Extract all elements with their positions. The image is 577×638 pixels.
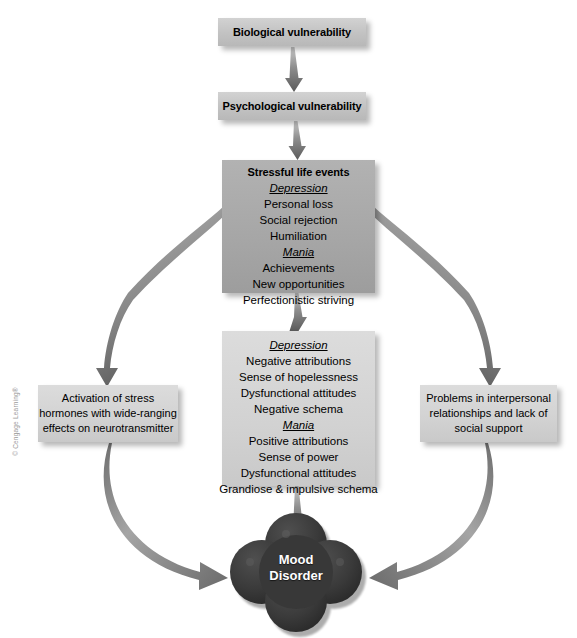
mood-disorder-line1: Mood	[236, 552, 356, 568]
stressful-mania-item: Achievements	[262, 260, 334, 276]
stress-hormones-line: hormones with wide-ranging	[39, 406, 177, 421]
arrow-biological-to-psychological	[285, 47, 303, 92]
mood-disorder-label: Mood Disorder	[236, 552, 356, 584]
stress-hormones-line: Activation of stress	[62, 391, 154, 406]
node-psychological-vulnerability[interactable]: Psychological vulnerability	[218, 92, 366, 120]
stressful-life-events-title: Stressful life events	[248, 165, 350, 180]
stressful-mania-label: Mania	[283, 244, 314, 260]
mood-disorder-diagram: Biological vulnerability Psychological v…	[0, 0, 577, 638]
psychological-vulnerability-title: Psychological vulnerability	[222, 99, 361, 114]
node-interpersonal-problems[interactable]: Problems in interpersonal relationships …	[420, 385, 557, 442]
cognitive-mania-item: Grandiose & impulsive schema	[219, 481, 378, 497]
biological-vulnerability-title: Biological vulnerability	[233, 25, 351, 40]
stressful-depression-item: Social rejection	[260, 212, 338, 228]
cognitive-depression-item: Negative schema	[254, 401, 343, 417]
mood-disorder-line2: Disorder	[236, 568, 356, 584]
stress-hormones-line: effects on neurotransmitter	[43, 421, 174, 436]
stressful-mania-item: New opportunities	[252, 276, 344, 292]
cognitive-depression-item: Dysfunctional attitudes	[241, 385, 357, 401]
arrow-stressful-to-stress-hormones	[96, 206, 228, 387]
cognitive-depression-item: Sense of hopelessness	[239, 369, 358, 385]
arrow-stress-hormones-to-outcome	[104, 443, 228, 590]
cognitive-depression-label: Depression	[269, 337, 327, 353]
node-stress-hormones[interactable]: Activation of stress hormones with wide-…	[38, 385, 178, 442]
interpersonal-line: social support	[455, 421, 523, 436]
copyright-notice: © Cengage Learning®	[12, 379, 19, 465]
cognitive-mania-item: Sense of power	[259, 449, 339, 465]
stressful-mania-item: Perfectionistic striving	[243, 292, 354, 308]
stressful-depression-label: Depression	[269, 180, 327, 196]
stressful-depression-item: Personal loss	[264, 196, 333, 212]
arrow-interpersonal-to-outcome	[369, 443, 493, 590]
cognitive-depression-item: Negative attributions	[246, 353, 351, 369]
interpersonal-line: relationships and lack of	[429, 406, 547, 421]
node-stressful-life-events[interactable]: Stressful life events Depression Persona…	[222, 160, 375, 293]
arrow-stressful-to-interpersonal	[369, 206, 501, 387]
cognitive-mania-item: Dysfunctional attitudes	[241, 465, 357, 481]
cognitive-mania-item: Positive attributions	[249, 433, 349, 449]
arrow-psychological-to-stressful	[289, 121, 307, 160]
stressful-depression-item: Humiliation	[270, 228, 327, 244]
node-cognitive-styles[interactable]: Depression Negative attributions Sense o…	[222, 331, 375, 486]
interpersonal-line: Problems in interpersonal	[426, 391, 551, 406]
node-biological-vulnerability[interactable]: Biological vulnerability	[218, 18, 366, 46]
cognitive-mania-label: Mania	[283, 417, 314, 433]
